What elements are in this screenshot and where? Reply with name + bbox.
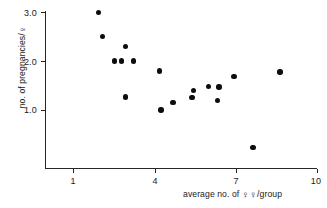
data-point — [100, 34, 105, 39]
data-point — [191, 88, 196, 93]
data-point — [231, 74, 236, 79]
data-point — [119, 58, 124, 63]
data-point — [189, 95, 194, 100]
data-point — [215, 98, 220, 103]
x-axis-tick-4 — [155, 169, 156, 174]
x-axis-title-suffix: /group — [257, 189, 282, 199]
y-axis-tick-3 — [41, 12, 46, 13]
data-point — [123, 94, 128, 99]
x-axis-tick-label-4: 4 — [143, 176, 167, 186]
y-axis-line — [45, 11, 46, 169]
data-point — [96, 10, 101, 15]
y-axis-tick-1 — [41, 110, 46, 111]
data-point — [123, 44, 128, 49]
data-point — [157, 68, 162, 73]
female-symbol-icon-2: ♀ — [249, 189, 257, 200]
data-point — [250, 145, 255, 150]
data-point — [170, 100, 175, 105]
y-axis-title: no. of pregnancies/♀ — [17, 0, 27, 137]
x-axis-tick-7 — [236, 169, 237, 174]
x-axis-tick-label-7: 7 — [224, 176, 248, 186]
plot-area: 3.0 2.0 1.0 1 4 7 10 no. of pregnancies/… — [0, 0, 327, 208]
female-symbol-icon: ♀ — [17, 26, 28, 34]
data-point — [112, 58, 117, 63]
data-point — [158, 107, 163, 112]
x-axis-tick-10 — [317, 169, 318, 174]
data-point — [131, 58, 136, 63]
x-axis-tick-label-1: 1 — [61, 176, 85, 186]
y-axis-title-text: no. of pregnancies/ — [17, 33, 27, 108]
x-axis-title: average no. of ♀♀/group — [183, 189, 282, 199]
x-axis-tick-1 — [73, 169, 74, 174]
data-point — [277, 69, 282, 74]
y-axis-tick-2 — [41, 61, 46, 62]
scatter-plot-figure: 3.0 2.0 1.0 1 4 7 10 no. of pregnancies/… — [0, 0, 327, 208]
x-axis-title-prefix: average no. of — [183, 189, 242, 199]
data-point — [206, 84, 211, 89]
x-axis-tick-label-10: 10 — [304, 176, 327, 186]
data-point — [216, 84, 221, 89]
x-axis-line — [45, 168, 317, 169]
